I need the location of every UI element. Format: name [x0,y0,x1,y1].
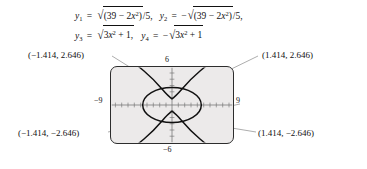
callout-bottom-left: (−1.414, −2.646) [18,128,79,138]
callout-top-left: (−1.414, 2.646) [28,50,84,60]
calculator-graph [110,66,234,144]
axis-label-xmin: −9 [94,96,103,105]
axis-label-ymax: 6 [165,55,169,64]
callout-top-right: (1.414, 2.646) [262,50,313,60]
axis-label-xmax: 9 [236,96,240,105]
graphing-calculator-figure: y1 = √(39 − 2x2)/5, y2 = −√(39 − 2x2)/5,… [0,0,367,169]
callout-bottom-right: (1.414, −2.646) [258,128,314,138]
axes [112,68,233,143]
axis-label-ymin: −6 [163,145,172,154]
